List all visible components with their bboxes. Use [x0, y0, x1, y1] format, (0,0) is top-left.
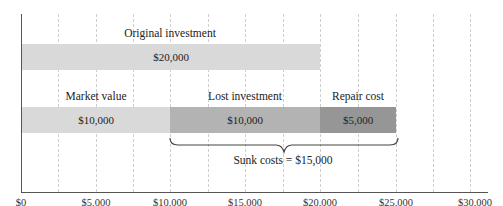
gridline [170, 14, 171, 192]
repair-cost-label: Repair cost [332, 90, 384, 102]
market-value-bar: $10,000 [22, 107, 170, 133]
x-tick: $20,000 [303, 197, 337, 206]
gridline [96, 14, 97, 192]
x-tick: $10,000 [153, 197, 187, 206]
lost-investment-label: Lost investment [208, 90, 282, 102]
market-value-label: Market value [66, 90, 127, 102]
x-tick: $5,000 [82, 197, 111, 206]
gridline [58, 14, 59, 192]
y-axis [21, 14, 22, 193]
original-investment-value: $20,000 [153, 51, 189, 63]
lost-investment-value: $10,000 [227, 114, 263, 126]
gridline [208, 14, 209, 192]
gridline [433, 14, 434, 192]
x-tick: $30,000 [458, 197, 492, 206]
gridline [358, 14, 359, 192]
gridline [396, 14, 397, 192]
sunk-cost-brace-icon [168, 136, 400, 156]
sunk-costs-annotation: Sunk costs = $15,000 [233, 154, 332, 166]
original-investment-label: Original investment [124, 27, 216, 39]
original-investment-bar: $20,000 [22, 44, 320, 70]
market-value-value: $10,000 [78, 114, 114, 126]
x-tick: $0 [16, 197, 27, 206]
gridline [470, 14, 471, 192]
repair-cost-bar: $5,000 [320, 107, 396, 133]
repair-cost-value: $5,000 [343, 114, 373, 126]
x-tick: $25,000 [379, 197, 413, 206]
x-tick: $15,000 [228, 197, 262, 206]
x-axis [21, 192, 488, 193]
lost-investment-bar: $10,000 [170, 107, 320, 133]
gridline [133, 14, 134, 192]
